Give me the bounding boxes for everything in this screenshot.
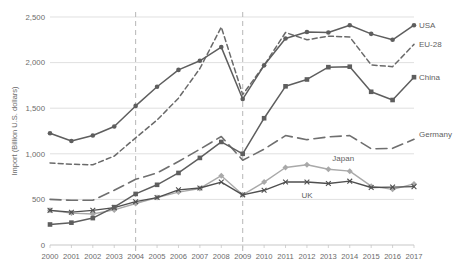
- x-tick-label: 2008: [213, 252, 230, 261]
- y-tick-label: 2,500: [25, 13, 45, 22]
- data-point-japan: [304, 162, 310, 168]
- data-point-china: [305, 77, 310, 82]
- import-line-chart: 05001,0001,5002,0002,5002000200120022003…: [0, 0, 459, 268]
- series-label-usa: USA: [419, 21, 436, 30]
- data-point-china: [69, 220, 74, 225]
- data-point-china: [326, 65, 331, 70]
- data-point-china: [48, 222, 53, 227]
- x-tick-label: 2000: [42, 252, 59, 261]
- data-point-usa: [91, 133, 96, 138]
- x-tick-label: 2012: [298, 252, 315, 261]
- y-tick-label: 1,000: [25, 150, 45, 159]
- data-point-usa: [305, 30, 310, 35]
- x-tick-label: 2001: [63, 252, 80, 261]
- y-tick-label: 2,000: [25, 58, 45, 67]
- data-point-usa: [369, 32, 374, 37]
- data-point-usa: [240, 97, 245, 102]
- x-tick-label: 2009: [234, 252, 251, 261]
- data-point-china: [262, 116, 267, 121]
- series-line-usa: [50, 25, 414, 141]
- series-label-uk: UK: [301, 191, 313, 200]
- data-point-china: [369, 89, 374, 94]
- series-line-china: [50, 67, 414, 225]
- data-point-japan: [68, 210, 74, 216]
- y-tick-label: 0: [41, 241, 46, 250]
- x-tick-label: 2014: [341, 252, 358, 261]
- data-point-usa: [347, 23, 352, 28]
- data-point-usa: [219, 45, 224, 50]
- data-point-china: [347, 64, 352, 69]
- series-label-japan: Japan: [332, 154, 354, 163]
- x-tick-label: 2004: [127, 252, 144, 261]
- y-tick-label: 1,500: [25, 104, 45, 113]
- data-point-china: [283, 84, 288, 89]
- data-point-china: [133, 192, 138, 197]
- x-tick-label: 2016: [384, 252, 401, 261]
- data-point-usa: [198, 58, 203, 63]
- x-tick-label: 2006: [170, 252, 187, 261]
- x-tick-label: 2003: [106, 252, 123, 261]
- series-line-eu: [50, 27, 414, 165]
- y-axis-title: Import (Billion U.S. dollars): [10, 86, 19, 176]
- data-point-usa: [69, 139, 74, 144]
- data-point-usa: [155, 84, 160, 89]
- data-point-china: [240, 152, 245, 157]
- data-point-china: [412, 75, 417, 80]
- data-point-usa: [326, 30, 331, 35]
- series-label-germany: Germany: [419, 130, 452, 139]
- data-point-usa: [283, 36, 288, 41]
- data-point-japan: [325, 166, 331, 172]
- data-point-usa: [176, 68, 181, 73]
- data-point-china: [390, 98, 395, 103]
- data-point-china: [198, 156, 203, 161]
- series-label-china: China: [419, 73, 440, 82]
- x-tick-label: 2015: [363, 252, 380, 261]
- x-tick-label: 2011: [277, 252, 293, 261]
- data-point-china: [112, 205, 117, 210]
- series-line-japan: [50, 165, 414, 214]
- data-point-usa: [48, 131, 53, 136]
- x-tick-label: 2010: [256, 252, 273, 261]
- x-tick-label: 2017: [406, 252, 423, 261]
- data-point-china: [176, 171, 181, 176]
- x-tick-label: 2005: [149, 252, 166, 261]
- series-line-germany: [50, 136, 414, 201]
- data-point-china: [91, 216, 96, 221]
- data-point-usa: [133, 104, 138, 109]
- x-tick-label: 2013: [320, 252, 337, 261]
- data-point-usa: [262, 63, 267, 68]
- data-point-china: [155, 183, 160, 188]
- chart-canvas: 05001,0001,5002,0002,5002000200120022003…: [0, 0, 459, 268]
- x-tick-label: 2002: [84, 252, 101, 261]
- data-point-china: [219, 140, 224, 145]
- data-point-usa: [112, 124, 117, 129]
- series-label-eu: EU-28: [419, 40, 442, 49]
- y-tick-label: 500: [32, 195, 46, 204]
- x-tick-label: 2007: [191, 252, 208, 261]
- data-point-usa: [412, 23, 417, 28]
- data-point-usa: [390, 38, 395, 43]
